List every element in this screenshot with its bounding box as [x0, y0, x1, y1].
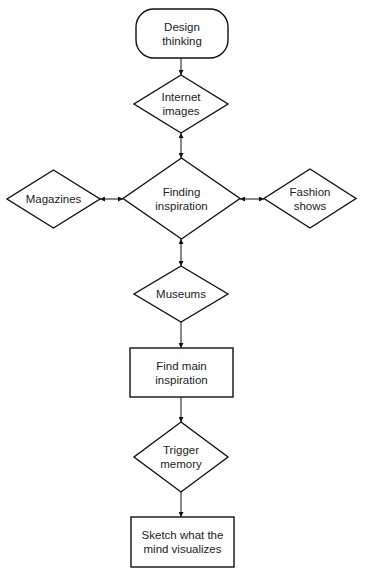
node-find-main-inspiration-shape	[130, 348, 233, 397]
node-museums-shape	[134, 266, 228, 322]
nodes-layer	[7, 9, 356, 567]
node-finding-inspiration-shape	[123, 158, 240, 239]
node-design-thinking-shape	[136, 9, 228, 58]
flowchart-canvas	[0, 0, 365, 574]
node-magazines-shape	[7, 170, 100, 228]
node-internet-images-shape	[134, 75, 228, 133]
node-fashion-shows-shape	[264, 169, 356, 228]
node-sketch-what-the-mind-visualizes-shape	[131, 517, 234, 567]
node-trigger-memory-shape	[134, 422, 228, 492]
